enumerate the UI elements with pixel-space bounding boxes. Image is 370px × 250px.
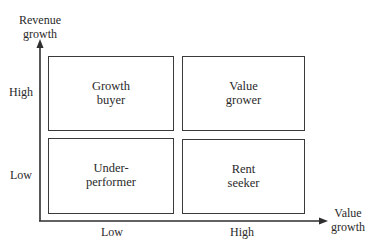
x-tick-high: High	[222, 225, 262, 239]
y-tick-high: High	[8, 85, 34, 99]
quadrant-label-line1: Growth	[49, 79, 173, 93]
y-axis-title-line2: growth	[15, 27, 65, 41]
y-axis-title-line1: Revenue	[15, 13, 65, 27]
quadrant-under-performer: Under- performer	[48, 138, 174, 214]
quadrant-label-line1: Value	[183, 79, 304, 93]
x-tick-low: Low	[92, 225, 132, 239]
quadrant-growth-buyer: Growth buyer	[48, 56, 174, 131]
y-axis-title: Revenue growth	[15, 13, 65, 41]
quadrant-label-line2: performer	[49, 175, 173, 189]
quadrant-label-line1: Under-	[49, 161, 173, 175]
quadrant-label-line1: Rent	[183, 162, 304, 176]
quadrant-rent-seeker: Rent seeker	[182, 139, 305, 214]
quadrant-value-grower: Value grower	[182, 56, 305, 131]
quadrant-label-line2: grower	[183, 93, 304, 107]
quadrant-label-line2: buyer	[49, 93, 173, 107]
quadrant-label-line2: seeker	[183, 176, 304, 190]
x-axis-title-line1: Value	[326, 206, 370, 220]
x-axis-title-line2: growth	[326, 220, 370, 234]
y-tick-low: Low	[8, 168, 34, 182]
x-axis-title: Value growth	[326, 206, 370, 234]
